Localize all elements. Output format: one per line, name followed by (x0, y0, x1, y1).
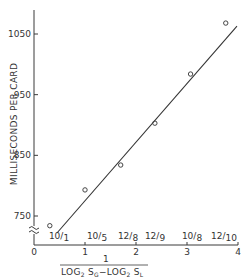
ratio-label: 10/5 (87, 231, 107, 243)
axis-break-icon (29, 227, 39, 234)
ratio-label: 12/9 (145, 231, 166, 243)
x-axis-title-numerator: 1 (103, 254, 109, 264)
ratio-annotations: 10/110/512/812/910/812/10 (49, 231, 237, 243)
data-point-circle (83, 188, 87, 192)
data-point-circle (119, 163, 123, 167)
y-axis-title: MILLISECONDS PER CARD (9, 63, 19, 185)
data-point-circle (224, 21, 228, 25)
data-point-circle (48, 224, 52, 228)
x-axis-title-denominator: LOG2 SG−LOG2 SL (61, 267, 144, 278)
scatter-chart: 7508509501050 01234 10/110/512/812/910/8… (0, 0, 248, 280)
data-point-circle (153, 121, 157, 125)
x-tick-label: 4 (235, 247, 241, 257)
x-tick-label: 1 (82, 247, 88, 257)
x-ticks: 01234 (31, 242, 241, 257)
x-tick-label: 0 (31, 247, 37, 257)
x-tick-label: 2 (133, 247, 139, 257)
ratio-label: 10/1 (49, 231, 69, 243)
y-tick-label: 750 (14, 211, 31, 221)
ratio-label: 12/10 (211, 231, 237, 243)
y-tick-label: 1050 (8, 29, 31, 39)
ratio-label: 12/8 (118, 231, 139, 243)
data-points (48, 21, 228, 228)
x-axis-title: 1 LOG2 SG−LOG2 SL (60, 254, 148, 278)
fit-line (57, 26, 237, 233)
regression-line (57, 26, 237, 233)
axes (29, 10, 238, 245)
x-tick-label: 3 (184, 247, 190, 257)
ratio-label: 10/8 (182, 231, 203, 243)
data-point-circle (188, 72, 192, 76)
